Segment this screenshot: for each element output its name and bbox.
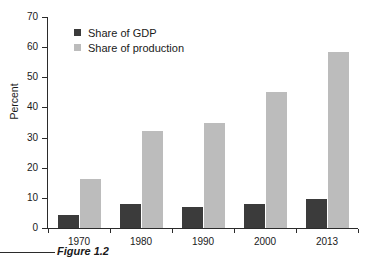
x-axis-tick xyxy=(234,229,235,233)
x-axis-tick xyxy=(296,229,297,233)
bar-share-of-production xyxy=(204,123,225,229)
bar-share-of-production xyxy=(328,52,349,228)
x-axis-tick xyxy=(48,229,49,233)
y-axis-tick xyxy=(42,168,47,169)
y-axis-title: Percent xyxy=(9,62,20,142)
y-axis-tick-label: 0 xyxy=(8,223,38,233)
caption-rule xyxy=(0,252,55,253)
chart-legend: Share of GDPShare of production xyxy=(74,25,184,55)
legend-label: Share of GDP xyxy=(88,27,156,39)
y-axis-tick-label: 70 xyxy=(8,12,38,22)
bar-share-of-gdp xyxy=(58,215,79,228)
bar-share-of-production xyxy=(266,92,287,228)
x-axis-tick xyxy=(110,229,111,233)
figure-caption: Figure 1.2 xyxy=(57,245,109,258)
bar-group xyxy=(306,17,349,228)
x-axis-line xyxy=(47,228,358,229)
legend-item: Share of production xyxy=(74,40,184,55)
x-axis-tick xyxy=(172,229,173,233)
y-axis-tick xyxy=(42,17,47,18)
legend-label: Share of production xyxy=(88,42,184,54)
x-axis-tick-label: 1990 xyxy=(172,236,234,247)
y-axis-tick xyxy=(42,138,47,139)
x-axis-tick xyxy=(358,229,359,233)
legend-swatch-icon xyxy=(74,29,81,36)
bar-group xyxy=(182,17,225,228)
y-axis-tick-label: 10 xyxy=(8,193,38,203)
y-axis-tick xyxy=(42,228,47,229)
bar-share-of-gdp xyxy=(306,199,327,228)
bar-share-of-production xyxy=(142,131,163,228)
x-axis-tick-label: 2000 xyxy=(234,236,296,247)
figure-container: 010203040506070 Percent 1970198019902000… xyxy=(0,0,369,264)
y-axis-tick xyxy=(42,198,47,199)
y-axis-tick-label: 60 xyxy=(8,42,38,52)
bar-share-of-gdp xyxy=(182,207,203,228)
bar-share-of-production xyxy=(80,179,101,228)
y-axis-tick-label: 20 xyxy=(8,163,38,173)
y-axis-tick xyxy=(42,107,47,108)
bar-share-of-gdp xyxy=(244,204,265,228)
y-axis-tick xyxy=(42,77,47,78)
legend-item: Share of GDP xyxy=(74,25,184,40)
x-axis-tick-label: 1980 xyxy=(110,236,172,247)
legend-swatch-icon xyxy=(74,44,81,51)
y-axis-tick xyxy=(42,47,47,48)
x-axis-tick-label: 2013 xyxy=(296,236,358,247)
bar-group xyxy=(244,17,287,228)
bar-share-of-gdp xyxy=(120,204,141,228)
